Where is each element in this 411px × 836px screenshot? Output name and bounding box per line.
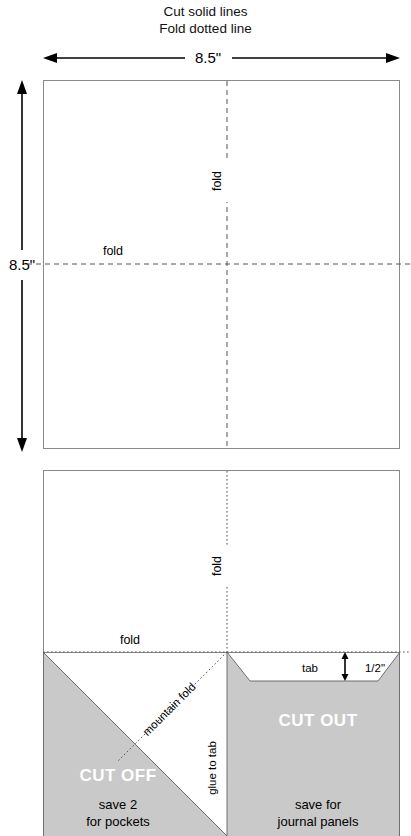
save-pockets-line-2: for pockets — [86, 814, 150, 829]
bottom-sheet-vertical-fold-label: fold — [210, 556, 224, 576]
save-journal-line-1: save for — [295, 797, 342, 812]
save-pockets-line-1: save 2 — [99, 797, 137, 812]
mountain-fold-label: mountain fold — [141, 681, 198, 738]
glue-to-tab-label: glue to tab — [206, 741, 218, 795]
width-dimension-arrow — [43, 53, 400, 63]
top-sheet-panel: fold fold — [27, 81, 411, 449]
top-sheet-horizontal-fold-label: fold — [103, 244, 123, 258]
cut-out-label: CUT OUT — [278, 711, 357, 730]
top-sheet-vertical-fold-label: fold — [210, 171, 224, 191]
instruction-line-2: Fold dotted line — [159, 21, 251, 36]
tab-dimension-label: 1/2" — [365, 662, 385, 674]
bottom-sheet-panel: fold fold mountain fold glue to tab tab … — [43, 471, 411, 836]
width-dimension-label: 8.5" — [195, 49, 221, 66]
tab-label: tab — [302, 662, 318, 674]
cut-off-label: CUT OFF — [79, 766, 156, 785]
instruction-line-1: Cut solid lines — [163, 4, 247, 19]
bottom-sheet-horizontal-fold-label: fold — [120, 633, 140, 647]
diagram-root: Cut solid lines Fold dotted line 8.5" 8.… — [0, 0, 411, 836]
save-journal-line-2: journal panels — [277, 814, 359, 829]
cut-fold-template-diagram: Cut solid lines Fold dotted line 8.5" 8.… — [0, 0, 411, 836]
tab-height-arrow — [342, 652, 349, 681]
